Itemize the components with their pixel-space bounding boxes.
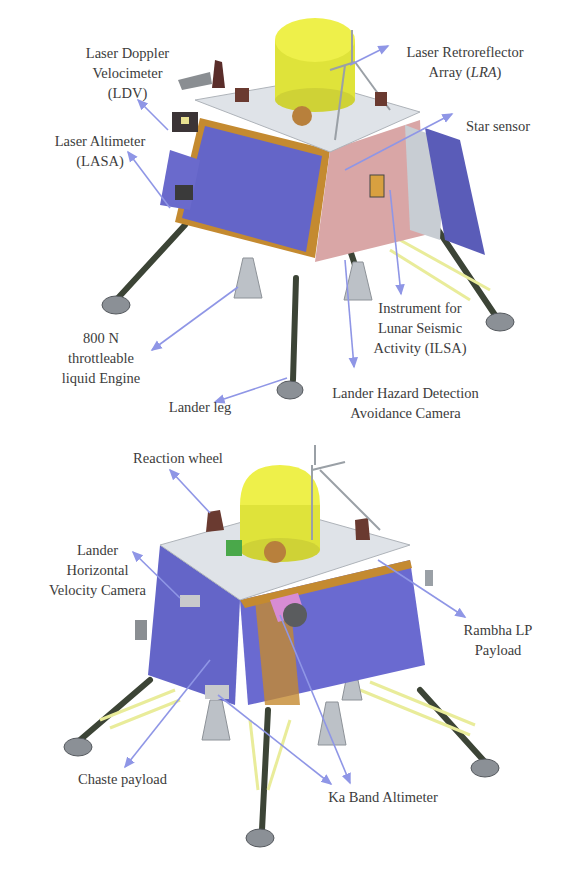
label-engine-line-3: liquid Engine xyxy=(45,368,157,388)
label-chaste: Chaste payload xyxy=(60,769,185,789)
label-rambha-line-1: Rambha LP xyxy=(448,620,548,640)
label-ldv: Laser Doppler Velocimeter (LDV) xyxy=(60,43,195,103)
lander-diagram: Laser Doppler Velocimeter (LDV) Laser Al… xyxy=(0,0,566,876)
label-ilsa: Instrument for Lunar Seismic Activity (I… xyxy=(355,298,485,358)
arrow-rw xyxy=(170,470,210,513)
arrow-ldv xyxy=(138,100,168,130)
label-lhvc-line-1: Lander xyxy=(30,540,165,560)
side-sensor xyxy=(135,620,147,640)
label-lasa-line-2: (LASA) xyxy=(30,151,170,171)
label-lasa-line-1: Laser Altimeter xyxy=(30,131,170,151)
label-lhvc-line-3: Velocity Camera xyxy=(30,580,165,600)
label-ka-band: Ka Band Altimeter xyxy=(308,787,458,807)
label-lhvc: Lander Horizontal Velocity Camera xyxy=(30,540,165,600)
label-ilsa-line-1: Instrument for xyxy=(355,298,485,318)
rambha-probe xyxy=(425,570,433,586)
ka-band-unit xyxy=(283,603,307,627)
label-lra-prefix: Array ( xyxy=(429,64,471,80)
label-chaste-line-1: Chaste payload xyxy=(60,769,185,789)
label-lra-suffix: ) xyxy=(497,64,502,80)
reaction-wheel-unit-bottom xyxy=(206,510,224,532)
label-lra-abbrev: LRA xyxy=(471,64,497,80)
label-lander-leg: Lander leg xyxy=(155,397,245,417)
label-lhdac: Lander Hazard Detection Avoidance Camera xyxy=(308,383,503,423)
label-lasa: Laser Altimeter (LASA) xyxy=(30,131,170,171)
ilsa-box xyxy=(370,175,384,197)
green-module xyxy=(226,540,242,556)
label-ldv-line-1: Laser Doppler xyxy=(60,43,195,63)
ldv-lens xyxy=(181,117,189,124)
label-engine-line-2: throttleable xyxy=(45,348,157,368)
label-ldv-line-2: Velocimeter xyxy=(60,63,195,83)
label-leg-line-1: Lander leg xyxy=(155,397,245,417)
label-ka-line-1: Ka Band Altimeter xyxy=(308,787,458,807)
label-star-sensor: Star sensor xyxy=(448,116,548,136)
reaction-wheel-front xyxy=(264,541,286,563)
reaction-wheel-top xyxy=(292,106,312,126)
label-engine: 800 N throttleable liquid Engine xyxy=(45,328,157,388)
label-rambha-line-2: Payload xyxy=(448,640,548,660)
chaste-unit xyxy=(205,685,229,699)
lhvc-camera xyxy=(180,595,200,607)
label-rw-line-1: Reaction wheel xyxy=(118,448,238,468)
antenna-top xyxy=(212,60,225,88)
reaction-wheel-unit-bottom-2 xyxy=(355,518,370,540)
reaction-wheel-unit xyxy=(235,88,249,102)
label-ilsa-line-3: Activity (ILSA) xyxy=(355,338,485,358)
label-rambha: Rambha LP Payload xyxy=(448,620,548,660)
label-reaction-wheel: Reaction wheel xyxy=(118,448,238,468)
label-star-line-1: Star sensor xyxy=(448,116,548,136)
engine-nozzles xyxy=(234,258,372,300)
label-lhvc-line-2: Horizontal xyxy=(30,560,165,580)
lasa-instrument xyxy=(175,185,193,200)
label-lhdac-line-2: Avoidance Camera xyxy=(308,403,503,423)
label-lra-line-2: Array (LRA) xyxy=(385,62,545,82)
label-lhdac-line-1: Lander Hazard Detection xyxy=(308,383,503,403)
label-ilsa-line-2: Lunar Seismic xyxy=(355,318,485,338)
label-lra: Laser Retroreflector Array (LRA) xyxy=(385,42,545,82)
arrow-engine xyxy=(152,287,238,350)
label-engine-line-1: 800 N xyxy=(45,328,157,348)
label-ldv-line-3: (LDV) xyxy=(60,83,195,103)
reaction-wheel-unit-2 xyxy=(375,92,387,106)
arrow-lra xyxy=(350,46,388,65)
label-lra-line-1: Laser Retroreflector xyxy=(385,42,545,62)
